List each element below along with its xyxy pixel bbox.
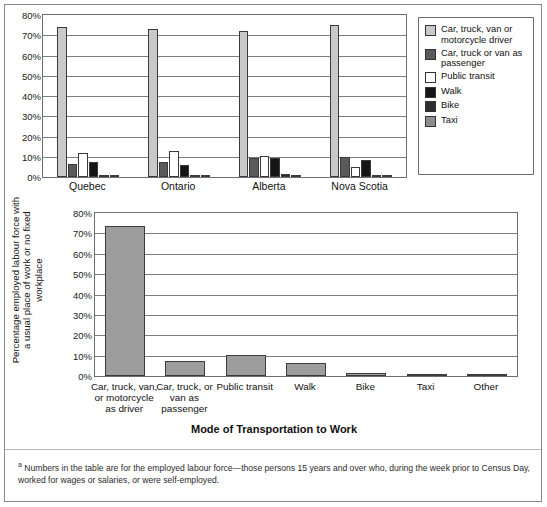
gridline [95, 335, 517, 336]
bar [330, 25, 340, 177]
bar [226, 355, 266, 376]
legend-item-label: Car, truck or van as passenger [441, 48, 528, 69]
x-axis-tick-label: Alberta [224, 180, 315, 192]
y-axis-tick-label: 20% [7, 131, 41, 142]
legend-item-label: Walk [441, 86, 461, 97]
x-axis-tick-label: Nova Scotia [314, 180, 405, 192]
bar-group [330, 15, 392, 177]
y-axis-tick-label: 30% [58, 309, 92, 320]
legend-item[interactable]: Walk [425, 86, 528, 98]
legend-swatch-icon [425, 72, 436, 83]
bar [110, 175, 120, 177]
legend-item[interactable]: Taxi [425, 115, 528, 127]
footnote: a Numbers in the table are for the emplo… [18, 459, 530, 487]
legend-swatch-icon [425, 101, 436, 112]
y-axis-tick-label: 60% [58, 248, 92, 259]
legend-item[interactable]: Bike [425, 100, 528, 112]
y-axis-tick-label: 50% [7, 70, 41, 81]
y-axis-tick-label: 0% [58, 371, 92, 382]
bottom-chart-x-axis-title: Mode of Transportation to Work [5, 423, 543, 435]
y-axis-tick-label: 40% [58, 289, 92, 300]
legend-item-label: Car, truck, van or motorcycle driver [441, 24, 528, 45]
y-axis-tick-label: 50% [58, 269, 92, 280]
y-axis-tick-label: 70% [58, 228, 92, 239]
bar [239, 31, 249, 177]
legend-item[interactable]: Car, truck or van as passenger [425, 48, 528, 69]
figure-container: 0%10%20%30%40%50%60%70%80% QuebecOntario… [4, 4, 542, 502]
bar [340, 157, 350, 177]
bar [159, 162, 169, 177]
bar [57, 27, 67, 177]
bar [286, 363, 326, 376]
bar [148, 29, 158, 177]
bar [105, 226, 145, 376]
bar [169, 151, 179, 177]
gridline [95, 356, 517, 357]
bar [201, 175, 211, 177]
x-axis-tick-label: Quebec [42, 180, 133, 192]
bottom-chart-y-axis: 0%10%20%30%40%50%60%70%80% [56, 212, 92, 377]
top-chart-y-axis: 0%10%20%30%40%50%60%70%80% [5, 14, 41, 178]
bar [281, 174, 291, 177]
bar [99, 175, 109, 177]
gridline [95, 233, 517, 234]
bar [89, 162, 99, 177]
bar [180, 165, 190, 177]
bar-group [148, 15, 210, 177]
legend-item-label: Bike [441, 100, 459, 111]
bar [361, 160, 371, 177]
bar [351, 167, 361, 177]
bar [260, 156, 270, 177]
gridline [95, 315, 517, 316]
bar [382, 175, 392, 177]
y-axis-tick-label: 60% [7, 50, 41, 61]
legend-swatch-icon [425, 116, 436, 127]
gridline [95, 295, 517, 296]
canada-bar-chart: Percentage employed labour force with a … [5, 201, 543, 446]
bar [270, 158, 280, 177]
x-axis-tick-label: Other [450, 381, 522, 392]
bar [346, 373, 386, 376]
y-axis-tick-label: 40% [7, 91, 41, 102]
y-axis-tick-label: 80% [58, 208, 92, 219]
legend-swatch-icon [425, 87, 436, 98]
legend-swatch-icon [425, 49, 436, 60]
bar [407, 374, 447, 376]
x-axis-tick-label: Ontario [133, 180, 224, 192]
bottom-chart-y-axis-title: Percentage employed labour force with a … [10, 196, 44, 364]
bar [165, 361, 205, 376]
legend-item[interactable]: Car, truck, van or motorcycle driver [425, 24, 528, 45]
legend: Car, truck, van or motorcycle driverCar,… [418, 17, 534, 175]
legend-item-label: Taxi [441, 115, 458, 126]
footnote-divider [5, 449, 541, 450]
bar-group [239, 15, 301, 177]
provinces-bar-chart: 0%10%20%30%40%50%60%70%80% QuebecOntario… [5, 5, 543, 197]
gridline [95, 274, 517, 275]
bar [78, 153, 88, 177]
bar [190, 175, 200, 177]
y-axis-tick-label: 20% [58, 330, 92, 341]
y-axis-tick-label: 10% [58, 350, 92, 361]
y-axis-tick-label: 10% [7, 151, 41, 162]
bar-group [57, 15, 119, 177]
legend-swatch-icon [425, 25, 436, 36]
bar [467, 374, 507, 376]
footnote-text: Numbers in the table are for the employe… [18, 463, 530, 485]
bar [68, 164, 78, 177]
legend-item-label: Public transit [441, 71, 495, 82]
y-axis-tick-label: 30% [7, 111, 41, 122]
legend-item[interactable]: Public transit [425, 71, 528, 83]
y-axis-tick-label: 70% [7, 30, 41, 41]
y-axis-tick-label: 80% [7, 10, 41, 21]
bar [249, 158, 259, 177]
top-chart-plot-area [42, 14, 407, 178]
bottom-chart-plot-area [94, 212, 518, 377]
bar [291, 175, 301, 177]
bar [372, 175, 382, 177]
footnote-marker: a [18, 461, 22, 468]
y-axis-tick-label: 0% [7, 172, 41, 183]
gridline [95, 254, 517, 255]
